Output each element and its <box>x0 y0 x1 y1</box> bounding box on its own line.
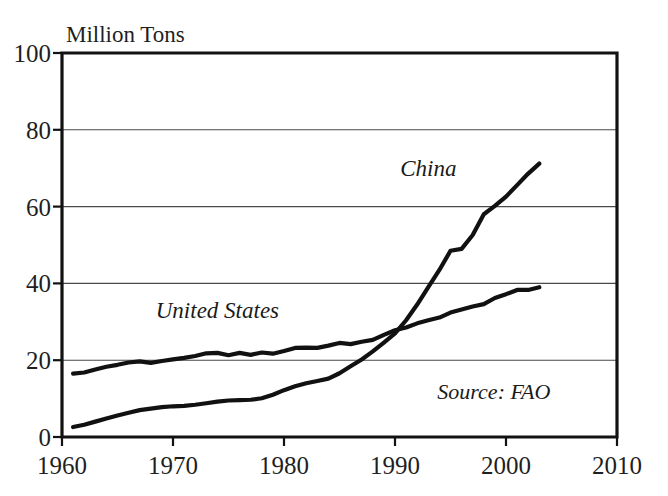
x-tick-label: 1990 <box>370 452 420 479</box>
y-tick-label: 20 <box>26 347 51 374</box>
gridlines <box>62 130 617 360</box>
y-tick-label: 60 <box>26 194 51 221</box>
y-tick-label: 40 <box>26 270 51 297</box>
y-tick-label: 80 <box>26 117 51 144</box>
y-axis-tick-labels: 020406080100 <box>14 40 52 451</box>
x-tick-label: 2010 <box>592 452 642 479</box>
y-tick-label: 100 <box>14 40 52 67</box>
x-tick-label: 1980 <box>259 452 309 479</box>
chart-figure: 020406080100 196019701980199020002010 Ch… <box>0 0 668 496</box>
series-annotation: United States <box>156 298 279 323</box>
line-chart-canvas: 020406080100 196019701980199020002010 Ch… <box>0 0 668 496</box>
series-annotation: China <box>400 156 456 181</box>
y-axis-title: Million Tons <box>66 22 185 47</box>
y-tick-label: 0 <box>39 424 52 451</box>
x-tick-label: 1960 <box>37 452 87 479</box>
x-tick-label: 1970 <box>148 452 198 479</box>
x-tick-label: 2000 <box>481 452 531 479</box>
source-annotation: Source: FAO <box>437 379 550 404</box>
x-axis-tick-labels: 196019701980199020002010 <box>37 452 642 479</box>
